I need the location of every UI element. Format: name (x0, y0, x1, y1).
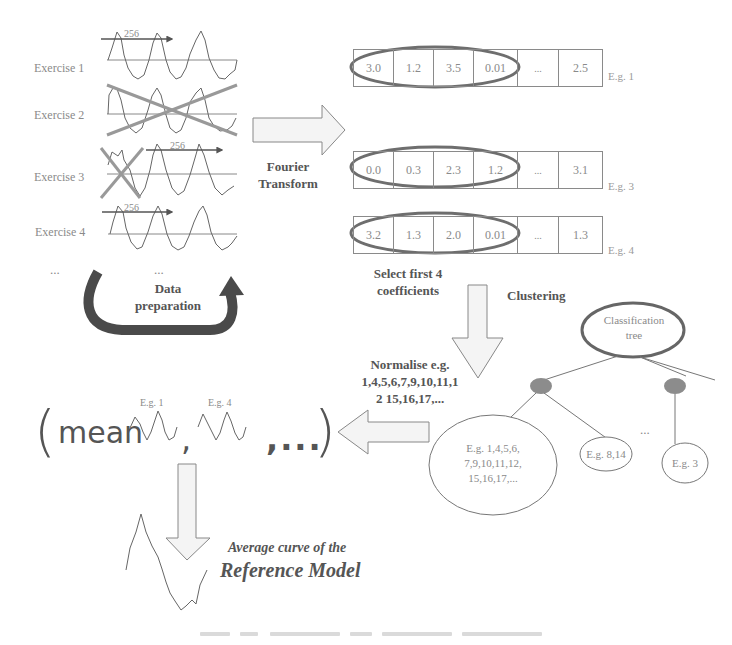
coef-row-1-label: E.g. 1 (608, 70, 634, 82)
coef-cell: 1.2 (474, 152, 518, 188)
tree-root-line-1: Classification (584, 313, 684, 328)
coef-row-3-label: E.g. 4 (608, 244, 634, 256)
ellipsis-left: ... (50, 262, 60, 278)
coef-cell: 2.5 (559, 50, 603, 86)
exercise-1-waveform (101, 31, 237, 79)
mean-close-paren: ) (314, 398, 336, 463)
window-label-1: 256 (124, 28, 139, 39)
normalise-line-3: 2 15,16,17,... (330, 390, 490, 407)
clipped-figure-caption (200, 632, 560, 645)
mean-comma: , (181, 420, 191, 458)
coef-cell: ... (518, 152, 559, 188)
leaf-large-line-2: 7,9,10,11,12, (436, 456, 550, 471)
coef-cell: 0.01 (474, 50, 518, 86)
coef-cell: 3.0 (354, 50, 394, 86)
tree-inner-node-left (530, 378, 552, 394)
coef-cell: ... (518, 217, 559, 253)
coef-cell: 2.3 (434, 152, 474, 188)
coef-cell: 0.3 (394, 152, 434, 188)
tree-root-label: Classification tree (584, 313, 684, 343)
tree-leaf-large-label: E.g. 1,4,5,6, 7,9,10,11,12, 15,16,17,... (436, 441, 550, 486)
average-curve-label: Average curve of the (228, 540, 346, 556)
coef-cell: 1.3 (559, 217, 603, 253)
tree-leaf-8-14-label: E.g. 8,14 (580, 447, 632, 462)
exercise-label-2: Exercise 2 (34, 108, 84, 123)
coefficient-row-3: 3.2 1.3 2.0 0.01 ... 1.3 (353, 216, 603, 254)
data-preparation-line-1: Data (126, 280, 210, 297)
exercise-label-3: Exercise 3 (34, 170, 84, 185)
coef-cell: 1.2 (394, 50, 434, 86)
leaf-large-line-3: 15,16,17,... (436, 471, 550, 486)
fourier-transform-label: Fourier Transform (250, 158, 326, 192)
select-coefficients-label: Select first 4 coefficients (358, 265, 458, 299)
coef-cell: 3.2 (354, 217, 394, 253)
fourier-transform-arrow (253, 105, 345, 155)
normalise-label: Normalise e.g. 1,4,5,6,7,9,10,11,1 2 15,… (330, 356, 490, 407)
clustering-label: Clustering (507, 287, 566, 304)
coef-cell: 0.0 (354, 152, 394, 188)
normalise-line-2: 1,4,5,6,7,9,10,11,1 (330, 373, 490, 390)
coef-cell: 0.01 (474, 217, 518, 253)
coef-cell: 3.1 (559, 152, 603, 188)
tree-inner-node-right (664, 378, 686, 394)
select-line-1: Select first 4 (358, 265, 458, 282)
coef-row-2-label: E.g. 3 (608, 180, 634, 192)
coefficient-row-2: 0.0 0.3 2.3 1.2 ... 3.1 (353, 151, 603, 189)
coef-cell: 3.5 (434, 50, 474, 86)
mean-curve-eg4 (198, 412, 246, 440)
normalise-left-arrow (338, 410, 429, 454)
coef-cell: 2.0 (434, 217, 474, 253)
coef-cell: 1.3 (394, 217, 434, 253)
data-preparation-label: Data preparation (126, 280, 210, 314)
mean-open-paren: ( (34, 398, 56, 463)
mean-curve-eg1-label: E.g. 1 (140, 397, 164, 408)
tree-root-line-2: tree (584, 328, 684, 343)
coef-cell: ... (518, 50, 559, 86)
exercise-3-waveform (101, 144, 237, 198)
coefficient-row-1: 3.0 1.2 3.5 0.01 ... 2.5 (353, 49, 603, 87)
tree-leaf-3-label: E.g. 3 (662, 456, 708, 471)
window-label-4: 256 (124, 202, 139, 213)
mean-curve-eg4-label: E.g. 4 (208, 397, 232, 408)
fourier-line-1: Fourier (250, 158, 326, 175)
select-line-2: coefficients (358, 282, 458, 299)
exercise-4-waveform (102, 206, 237, 250)
window-label-3: 256 (170, 140, 185, 151)
exercise-label-4: Exercise 4 (35, 225, 85, 240)
data-preparation-line-2: preparation (126, 297, 210, 314)
normalise-line-1: Normalise e.g. (330, 356, 490, 373)
exercise-label-1: Exercise 1 (34, 61, 84, 76)
mean-word: mean (58, 415, 143, 450)
ellipsis-mid: ... (154, 262, 164, 278)
reference-down-arrow (166, 464, 210, 560)
fourier-line-2: Transform (250, 175, 326, 192)
exercise-2-waveform (107, 85, 237, 135)
leaf-large-line-1: E.g. 1,4,5,6, (436, 441, 550, 456)
tree-ellipsis: ... (640, 422, 650, 437)
reference-model-label: Reference Model (220, 559, 361, 582)
